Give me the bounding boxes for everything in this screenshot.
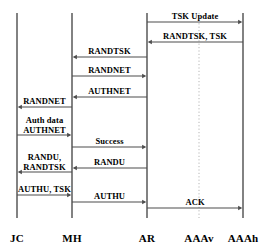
message-arrowhead-m2 [148, 40, 152, 45]
message-label-line1: ACK [185, 198, 204, 207]
lifeline-label-ar: AR [139, 232, 155, 244]
message-label-line1: AUTHU, TSK [18, 185, 71, 194]
message-label-line1: RANDTSK, TSK [163, 32, 227, 41]
message-label-line1: RANDTSK [88, 47, 130, 56]
message-label-m12: AUTHU [94, 192, 125, 201]
message-label-m5: AUTHNET [88, 87, 131, 96]
message-label-m2: RANDTSK, TSK [163, 32, 227, 41]
message-label-m4: RANDNET [88, 66, 131, 75]
message-label-line1: TSK Update [172, 12, 219, 21]
sequence-diagram: JCMHARAAAvAAAhTSK UpdateRANDTSK, TSKRAND… [0, 0, 277, 246]
message-arrowhead-m3 [73, 55, 77, 60]
message-label-m7: Auth dataAUTHNET [23, 116, 66, 135]
lifeline-label-aaav: AAAv [184, 232, 213, 244]
message-arrowhead-m1 [238, 20, 242, 25]
message-label-m3: RANDTSK [88, 47, 130, 56]
message-arrowhead-m7 [67, 133, 71, 138]
lifeline-label-aaah: AAAh [228, 232, 259, 244]
message-label-m1: TSK Update [172, 12, 219, 21]
message-arrowhead-m9 [73, 166, 77, 171]
message-label-m6: RANDNET [23, 97, 66, 106]
message-label-line2: AUTHNET [23, 126, 66, 136]
message-label-m11: AUTHU, TSK [18, 185, 71, 194]
message-arrowhead-m13 [238, 206, 242, 211]
message-label-line1: RANDNET [88, 66, 131, 75]
message-arrowhead-m8 [142, 145, 146, 150]
message-label-line1: RANDNET [23, 97, 66, 106]
lifeline-label-mh: MH [62, 232, 81, 244]
message-label-line1: Success [95, 137, 123, 146]
lifeline-label-jc: JC [10, 232, 24, 244]
message-arrowhead-m6 [18, 105, 22, 110]
message-label-line2: RANDTSK [23, 163, 65, 173]
message-label-m10: RANDU,RANDTSK [23, 153, 65, 172]
message-label-m9: RANDU [94, 158, 125, 167]
message-label-line1: AUTHU [94, 192, 125, 201]
message-arrowhead-m10 [18, 170, 22, 175]
message-label-m13: ACK [185, 198, 204, 207]
message-label-m8: Success [95, 137, 123, 146]
message-arrowhead-m4 [142, 74, 146, 79]
message-arrowhead-m5 [73, 95, 77, 100]
message-label-line1: AUTHNET [88, 87, 131, 96]
message-arrowhead-m12 [142, 200, 146, 205]
message-label-line1: RANDU [94, 158, 125, 167]
